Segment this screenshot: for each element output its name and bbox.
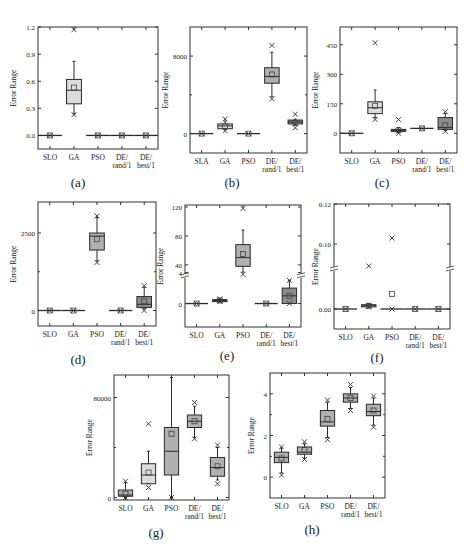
outlier-marker	[366, 264, 371, 269]
y-tick-label: 0	[32, 308, 36, 316]
box-4	[288, 112, 303, 131]
x-tick-label: GA	[370, 157, 381, 166]
box-2	[237, 131, 260, 136]
y-tick-label: 0.3	[26, 105, 35, 113]
y-tick-label: 0	[264, 474, 268, 482]
x-tick-label: SLO	[339, 333, 354, 342]
box-4	[427, 307, 450, 312]
y-axis-label: Error Range	[311, 247, 320, 285]
x-tick-label: PSO	[385, 333, 399, 342]
panel-a: 0.00.30.60.91.2Error RangeSLOGAPSODE/ran…	[0, 0, 160, 200]
box-0	[38, 308, 61, 313]
box-1	[368, 40, 383, 122]
panel-g: 080000Error RangeSLOGAPSODE/rand/1DE/bes…	[80, 370, 260, 555]
x-tick-label: best/1	[135, 338, 153, 347]
x-tick-label: SLO	[190, 331, 205, 340]
panel-caption: (g)	[144, 525, 168, 541]
x-tick-label: rand/1	[185, 512, 204, 521]
y-axis-label: Error Range	[161, 71, 170, 109]
chart-g: 080000Error RangeSLOGAPSODE/rand/1DE/bes…	[80, 370, 260, 555]
y-tick-label: 2	[264, 433, 268, 441]
y-tick-label: 450	[327, 42, 338, 50]
panel-caption: (b)	[220, 175, 244, 191]
box-1	[218, 117, 233, 134]
y-tick-label: 150	[327, 101, 338, 109]
x-tick-label: GA	[69, 153, 80, 162]
outlier-marker	[373, 40, 378, 45]
x-tick-label: PSO	[91, 153, 105, 162]
outlier-marker	[269, 43, 274, 48]
panel-caption: (h)	[300, 522, 324, 538]
box-1	[67, 27, 82, 117]
x-tick-label: PSO	[321, 502, 335, 511]
x-tick-label: best/1	[137, 161, 155, 170]
y-tick-label: 8000	[173, 53, 188, 61]
box-2	[86, 133, 110, 138]
chart-c: 0150300450Error RangeSLOGAPSODE/rand/1DE…	[310, 0, 474, 200]
box-3	[187, 400, 201, 441]
y-tick-label: 0.10	[319, 241, 332, 249]
x-tick-label: SLO	[43, 153, 58, 162]
box-1	[297, 439, 311, 462]
x-tick-label: SLO	[345, 157, 360, 166]
x-tick-label: GA	[214, 331, 225, 340]
outlier-marker	[192, 400, 197, 405]
chart-f: 0.000.100.12Error RangeSLOGAPSODE/rand/1…	[310, 190, 474, 380]
box-4	[282, 278, 296, 306]
y-tick-label: 0	[108, 495, 112, 503]
x-tick-label: rand/1	[406, 341, 425, 350]
y-tick-label: 4	[179, 270, 183, 278]
panel-caption: (c)	[370, 175, 394, 191]
box-3	[265, 43, 280, 101]
box-2	[236, 206, 250, 277]
box-1	[62, 308, 85, 313]
x-tick-label: rand/1	[112, 161, 131, 170]
box-1	[141, 421, 155, 490]
x-tick-label: GA	[220, 157, 231, 166]
y-tick-label: 0.0	[26, 132, 35, 140]
x-tick-label: best/1	[365, 510, 383, 519]
y-tick-label: 1.2	[26, 24, 35, 32]
box-2	[90, 213, 105, 265]
chart-b: 08000Error RangeSLAGAPSODE/rand/1DE/best…	[155, 0, 315, 200]
box-4	[210, 443, 224, 487]
outlier-marker	[293, 125, 298, 130]
y-tick-label: 80	[175, 233, 183, 241]
box-3	[404, 307, 427, 312]
x-tick-label: PSO	[392, 157, 406, 166]
box-4	[137, 283, 152, 313]
x-tick-label: rand/1	[111, 338, 130, 347]
panel-f: 0.000.100.12Error RangeSLOGAPSODE/rand/1…	[310, 190, 474, 380]
y-axis-label: Error Range	[311, 71, 320, 109]
x-tick-label: SLO	[118, 504, 133, 513]
box-0	[274, 444, 288, 477]
x-tick-label: GA	[299, 502, 310, 511]
y-tick-label: 0	[334, 130, 338, 138]
x-tick-label: SLO	[274, 502, 289, 511]
panel-caption: (a)	[66, 175, 90, 191]
box-3	[410, 126, 433, 131]
x-tick-label: PSO	[236, 331, 250, 340]
panel-d: 02500Error RangeSLOGAPSODE/rand/1DE/best…	[0, 190, 160, 380]
x-tick-label: PSO	[90, 330, 104, 339]
x-tick-label: rand/1	[257, 339, 276, 348]
outlier-marker	[215, 443, 220, 448]
x-tick-label: rand/1	[412, 165, 431, 174]
y-tick-label: 80000	[94, 395, 112, 403]
y-axis-label: Error Range	[85, 418, 94, 456]
box-0	[190, 131, 213, 136]
box-2	[391, 117, 406, 136]
x-tick-label: SLA	[195, 157, 210, 166]
x-tick-label: GA	[143, 504, 154, 513]
x-tick-label: PSO	[242, 157, 256, 166]
chart-h: 024Error RangeSLOGAPSODE/rand/1DE/best/1	[245, 370, 410, 555]
y-tick-label: 40	[175, 262, 183, 270]
box-1	[362, 264, 376, 310]
x-tick-label: best/1	[286, 165, 304, 174]
box-3	[109, 308, 132, 313]
box-3	[110, 133, 134, 138]
box-2	[164, 378, 178, 501]
x-tick-label: best/1	[280, 339, 298, 348]
outlier-marker	[396, 117, 401, 122]
plot-frame	[334, 204, 450, 329]
